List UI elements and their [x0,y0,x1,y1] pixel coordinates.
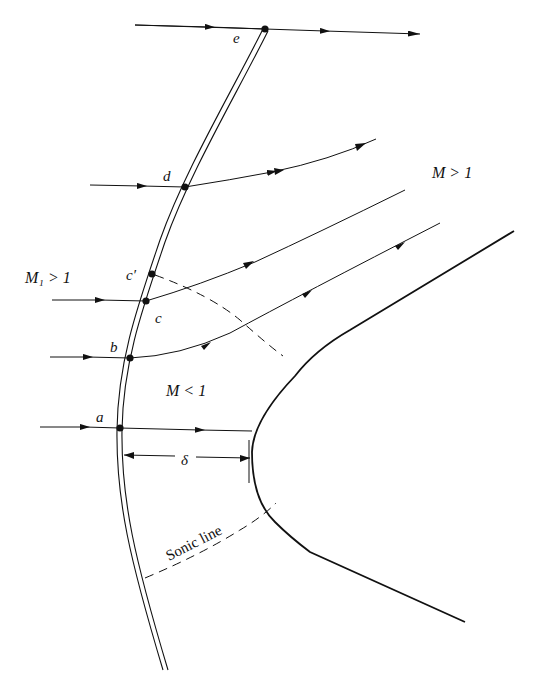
streamline-c [52,190,405,301]
point-d [181,183,188,190]
label-c-prime: c′ [126,267,137,283]
label-d: d [163,168,171,184]
label-c: c [155,310,162,326]
label-standoff-delta: δ [181,452,189,468]
label-b: b [110,339,118,355]
bow-shock [117,29,268,670]
point-e [261,25,268,32]
streamline-a [40,427,252,431]
label-supersonic-region: M > 1 [431,164,472,181]
label-freestream-mach: M₁ > 1 [24,269,71,286]
label-sonic-line: Sonic line [163,522,224,564]
bow-shock-diagram: e d c′ c b a M₁ > 1 M > 1 M < 1 δ Sonic … [0,0,535,688]
label-a: a [96,409,104,425]
streamline-d [90,139,376,187]
point-b [126,354,133,361]
shock-points [116,25,268,431]
blunt-body [252,231,514,622]
label-e: e [233,30,240,46]
point-c-prime [148,270,155,277]
point-a [116,424,123,431]
label-subsonic-region: M < 1 [165,382,206,399]
streamline-b [50,223,440,358]
point-c [142,297,149,304]
streamline-e [135,25,420,34]
sonic-line-upper [155,275,283,356]
